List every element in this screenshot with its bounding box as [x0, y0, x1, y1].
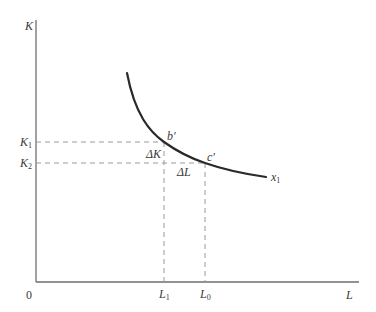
curve-label-sub: 1	[276, 176, 280, 185]
delta-k-label: ΔK	[146, 148, 161, 160]
l1-label-sub: 1	[166, 293, 170, 302]
point-c-label: c′	[207, 151, 215, 163]
x-axis-label: L	[346, 289, 353, 301]
delta-l-label: ΔL	[177, 166, 191, 178]
l1-label-base: L	[159, 287, 166, 301]
isoquant-diagram: K L 0 K1 K2 L1 L0 b′ c′ ΔK ΔL x1	[0, 0, 376, 312]
isoquant-curve	[127, 73, 266, 177]
y-axis-label: K	[25, 20, 33, 32]
k2-label-sub: 2	[28, 162, 32, 171]
l0-label-base: L	[200, 287, 207, 301]
k1-label: K1	[20, 136, 32, 150]
point-b-label: b′	[167, 130, 176, 142]
origin-label: 0	[26, 289, 32, 301]
l1-label: L1	[159, 288, 170, 302]
l0-label-sub: 0	[207, 293, 211, 302]
k2-label: K2	[20, 157, 32, 171]
l0-label: L0	[200, 288, 211, 302]
diagram-canvas	[0, 0, 376, 312]
k1-label-sub: 1	[28, 141, 32, 150]
k1-label-base: K	[20, 135, 28, 149]
curve-label: x1	[271, 171, 280, 185]
k2-label-base: K	[20, 156, 28, 170]
